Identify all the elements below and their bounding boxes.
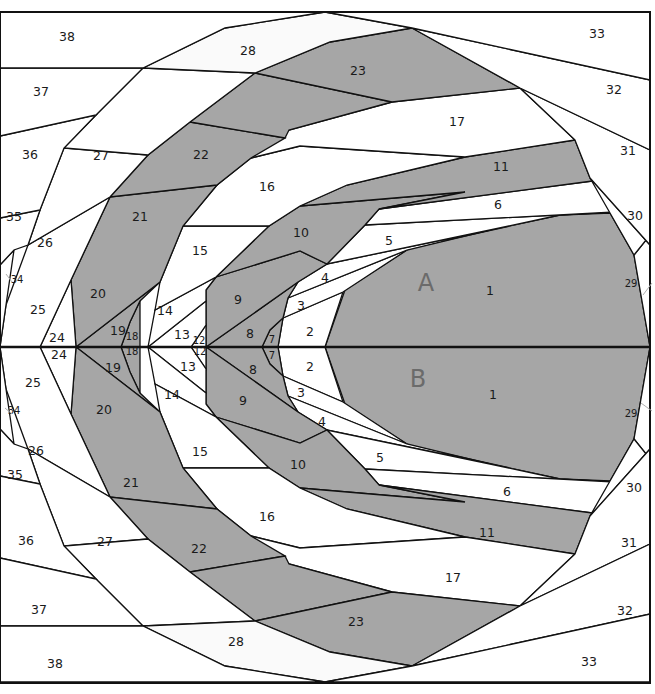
section-b-piece-number-6: 6 [503, 484, 511, 499]
section-a-piece-number-4: 4 [321, 270, 329, 285]
paper-piecing-pattern: 1234567891011121314151617181920212223242… [0, 0, 655, 694]
section-b-piece-number-26: 26 [28, 443, 44, 458]
section-a-piece-number-34: 34 [11, 274, 24, 285]
section-a-piece-number-37: 37 [33, 84, 49, 99]
section-b-piece-number-19: 19 [105, 360, 121, 375]
section-b-piece-number-13: 13 [180, 359, 196, 374]
section-b-piece-number-29: 29 [625, 408, 638, 419]
section-b-piece-number-7: 7 [269, 350, 275, 361]
section-b [0, 347, 650, 682]
section-a-piece-number-33: 33 [589, 26, 605, 41]
section-a-piece-number-20: 20 [90, 286, 106, 301]
section-b-piece-number-5: 5 [376, 450, 384, 465]
section-a-piece-number-15: 15 [192, 243, 208, 258]
section-b-piece-number-17: 17 [445, 570, 461, 585]
section-a-piece-number-22: 22 [193, 147, 209, 162]
section-b-piece-number-20: 20 [96, 402, 112, 417]
section-b-piece-number-28: 28 [228, 634, 244, 649]
section-b-piece-number-1: 1 [489, 387, 497, 402]
section-a-piece-number-17: 17 [449, 114, 465, 129]
section-a-piece-number-9: 9 [234, 292, 242, 307]
section-b-piece-number-38: 38 [47, 656, 63, 671]
section-b-piece-number-30: 30 [626, 480, 642, 495]
section-a-piece-number-14: 14 [157, 303, 173, 318]
section-b-piece-number-4: 4 [318, 414, 326, 429]
section-b-piece-number-2: 2 [306, 359, 314, 374]
section-b-piece-number-32: 32 [617, 603, 633, 618]
section-b-piece-number-31: 31 [621, 535, 637, 550]
section-a-piece-number-11: 11 [493, 159, 509, 174]
section-a-piece-number-24: 24 [49, 330, 65, 345]
section-b-piece-number-21: 21 [123, 475, 139, 490]
section-b-piece-number-8: 8 [249, 362, 257, 377]
section-a-piece-number-32: 32 [606, 82, 622, 97]
section-a-piece-number-35: 35 [6, 209, 22, 224]
section-b-piece-number-14: 14 [164, 387, 180, 402]
section-a-piece-number-6: 6 [494, 197, 502, 212]
section-a-piece-number-10: 10 [293, 225, 309, 240]
section-a-piece-number-31: 31 [620, 143, 636, 158]
section-b-piece-number-11: 11 [479, 525, 495, 540]
section-b-piece-number-15: 15 [192, 444, 208, 459]
section-a-piece-number-1: 1 [486, 283, 494, 298]
section-b-piece-number-18: 18 [126, 346, 139, 357]
section-a-piece-number-13: 13 [174, 327, 190, 342]
section-b-piece-number-9: 9 [239, 393, 247, 408]
section-a-piece-number-18: 18 [126, 331, 139, 342]
section-a-piece-number-8: 8 [246, 326, 254, 341]
section-b-piece-number-36: 36 [18, 533, 34, 548]
section-a-piece-number-21: 21 [132, 209, 148, 224]
section-a-piece-number-29: 29 [625, 278, 638, 289]
section-a-piece-number-16: 16 [259, 179, 275, 194]
section-b-piece-number-35: 35 [7, 467, 23, 482]
section-a-piece-number-36: 36 [22, 147, 38, 162]
section-a-piece-number-28: 28 [240, 43, 256, 58]
section-b-piece-number-37: 37 [31, 602, 47, 617]
section-b-piece-number-16: 16 [259, 509, 275, 524]
section-a-piece-number-27: 27 [93, 148, 109, 163]
section-b-piece-number-22: 22 [191, 541, 207, 556]
section-b-piece-number-10: 10 [290, 457, 306, 472]
section-a-piece-number-38: 38 [59, 29, 75, 44]
section-b-piece-number-23: 23 [348, 614, 364, 629]
section-a-piece-number-19: 19 [110, 323, 126, 338]
section-a-piece-number-7: 7 [269, 334, 275, 345]
section-a-piece-number-26: 26 [37, 235, 53, 250]
section-a-piece-number-23: 23 [350, 63, 366, 78]
section-b-piece-number-24: 24 [51, 347, 67, 362]
section-a-piece-number-12: 12 [193, 335, 206, 346]
section-a-piece-number-5: 5 [385, 233, 393, 248]
section-a-piece-number-3: 3 [297, 298, 305, 313]
section-a-piece-number-2: 2 [306, 324, 314, 339]
section-b-piece-number-34: 34 [8, 405, 21, 416]
section-b-piece-number-12: 12 [194, 346, 207, 357]
section-b-piece-number-33: 33 [581, 654, 597, 669]
section-a-piece-number-25: 25 [30, 302, 46, 317]
section-b-piece-number-25: 25 [25, 375, 41, 390]
section-b-piece-number-3: 3 [297, 385, 305, 400]
section-b-piece-number-27: 27 [97, 534, 113, 549]
section-letter-b: B [410, 365, 426, 393]
section-letter-a: A [418, 269, 435, 297]
section-a-piece-number-30: 30 [627, 208, 643, 223]
